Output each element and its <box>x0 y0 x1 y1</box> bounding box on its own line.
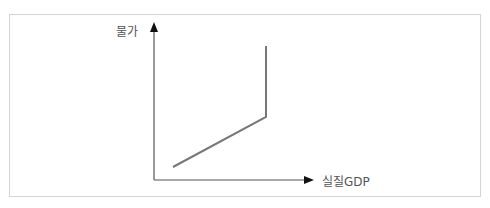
aggregate-supply-curve <box>173 46 266 167</box>
x-axis-label: 실질GDP <box>322 172 370 189</box>
supply-diagram <box>0 0 490 208</box>
x-axis-arrow-icon <box>304 176 314 184</box>
y-axis-arrow-icon <box>150 22 158 32</box>
y-axis-label: 물가 <box>116 22 138 39</box>
